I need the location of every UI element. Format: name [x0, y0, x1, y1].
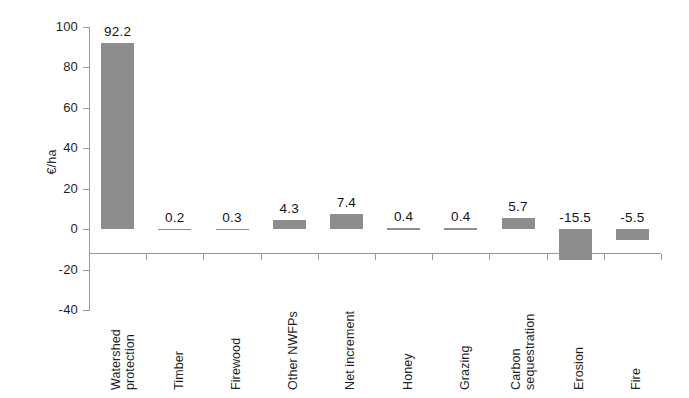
- category-label: Grazing: [459, 346, 473, 390]
- y-tick-label: 0: [40, 221, 78, 236]
- bar-chart: €/ha 100806040200-20-40 92.20.20.34.37.4…: [0, 0, 689, 398]
- category-label: Honey: [402, 353, 416, 390]
- bar: [330, 214, 363, 229]
- bar: [387, 228, 420, 229]
- y-tick-label: 40: [40, 140, 78, 155]
- y-tick-label: 60: [40, 100, 78, 115]
- bar: [616, 229, 649, 240]
- bar-value-label: 7.4: [306, 195, 386, 210]
- bar-value-label: -5.5: [592, 210, 672, 225]
- y-tick-label: 100: [40, 19, 78, 34]
- bar: [559, 229, 592, 260]
- bar: [158, 229, 191, 230]
- y-tick-label: 80: [40, 59, 78, 74]
- bar: [273, 220, 306, 229]
- y-tick-label: -40: [40, 302, 78, 317]
- bar: [502, 218, 535, 230]
- y-tick-label: 20: [40, 181, 78, 196]
- category-label: Erosion: [573, 347, 587, 390]
- bar-value-label: 92.2: [78, 24, 158, 39]
- bar: [444, 228, 477, 229]
- y-tick-mark: [83, 310, 90, 311]
- category-label: Watershedprotection: [109, 329, 137, 390]
- category-label: Timber: [173, 351, 187, 390]
- category-label: Other NWFPs: [287, 311, 301, 390]
- bar: [216, 229, 249, 230]
- bar: [101, 43, 134, 229]
- y-tick-label: -20: [40, 262, 78, 277]
- plot-area: 92.20.20.34.37.40.40.45.7-15.5-5.5: [89, 27, 661, 310]
- category-label: Fire: [630, 368, 644, 390]
- x-tick-mark: [661, 254, 662, 260]
- category-label: Carbonsequestration: [509, 314, 537, 390]
- category-label: Net increment: [344, 311, 358, 390]
- category-label: Firewood: [230, 338, 244, 390]
